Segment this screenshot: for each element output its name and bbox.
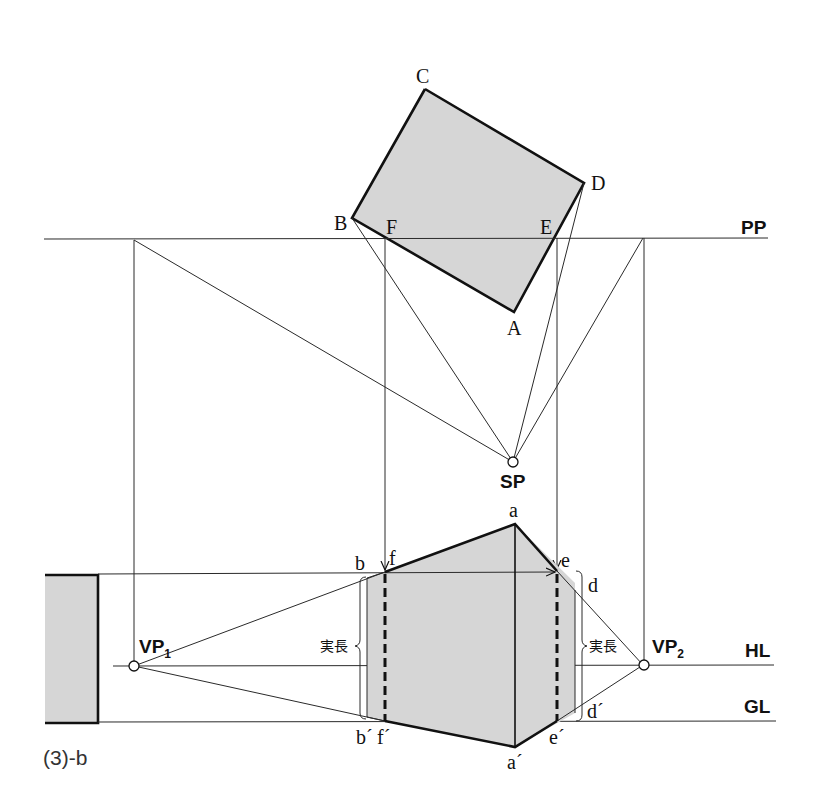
- label-elev-b: b: [355, 553, 365, 573]
- label-horizon-line: HL: [745, 641, 770, 660]
- label-elev-f: f: [389, 548, 396, 568]
- label-true-length-right: 実長: [589, 639, 617, 653]
- perspective-diagram: [0, 0, 813, 803]
- label-picture-plane: PP: [741, 218, 766, 237]
- label-vp2-base: VP: [652, 636, 677, 657]
- label-vp1: VP1: [139, 637, 171, 660]
- label-corner-a: A: [507, 318, 521, 338]
- label-point-f: F: [386, 217, 397, 237]
- label-elev-b-prime: b´: [356, 727, 373, 747]
- station-point-marker: [508, 457, 518, 467]
- elevation-block: [45, 575, 98, 723]
- label-elev-e: e: [561, 550, 570, 570]
- label-point-e: E: [540, 217, 552, 237]
- label-corner-b: B: [334, 213, 347, 233]
- label-elev-e-prime: e´: [549, 727, 565, 747]
- vp1-line-bottom: [134, 666, 385, 721]
- label-elev-a: a: [509, 500, 518, 520]
- vp1-marker: [129, 661, 139, 671]
- picture-plane-line: [44, 238, 768, 239]
- vp2-marker: [639, 660, 649, 670]
- figure-caption: (3)-b: [43, 747, 87, 768]
- label-vp2: VP2: [652, 637, 684, 660]
- label-vp1-sub: 1: [164, 647, 171, 661]
- label-vp2-sub: 2: [677, 647, 684, 661]
- plan-square: [352, 89, 584, 312]
- label-ground-line: GL: [744, 697, 770, 716]
- label-elev-d-prime: d´: [587, 701, 604, 721]
- label-corner-d: D: [591, 173, 605, 193]
- label-elev-d: d: [588, 575, 598, 595]
- true-length-bracket-left: [355, 577, 366, 719]
- label-elev-a-prime: a´: [507, 752, 523, 772]
- label-vp1-base: VP: [139, 636, 164, 657]
- label-elev-f-prime: f´: [377, 727, 390, 747]
- label-station-point: SP: [500, 472, 525, 491]
- label-true-length-left: 実長: [320, 639, 348, 653]
- label-corner-c: C: [416, 66, 429, 86]
